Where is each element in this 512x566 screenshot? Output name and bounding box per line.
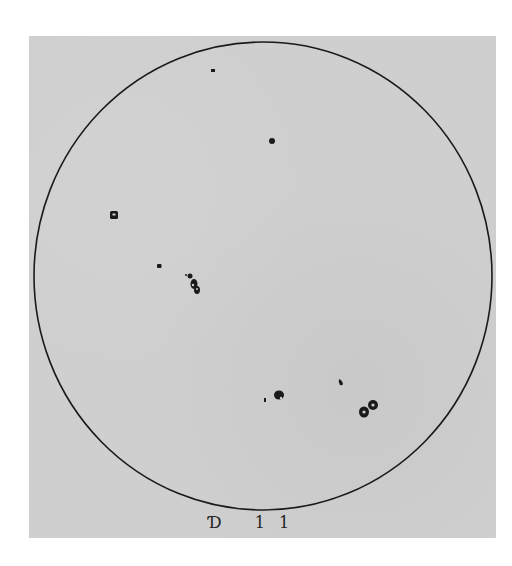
plate-caption: Ɗ 11 bbox=[0, 513, 512, 532]
sunspot-lower-center bbox=[264, 391, 284, 403]
sunspot-upper-center bbox=[269, 138, 275, 144]
sunspot-left-square bbox=[110, 211, 118, 219]
solar-disk-drawing bbox=[0, 0, 512, 566]
sunspot-lower-right-pair bbox=[359, 400, 378, 418]
sunspot-top-small bbox=[211, 69, 215, 72]
sunspot-left-small bbox=[157, 264, 162, 268]
sunspot-lower-right-small bbox=[339, 379, 343, 385]
sunspot-group-center-left bbox=[185, 274, 200, 295]
solar-disk-outline bbox=[34, 42, 492, 510]
sunspots bbox=[110, 69, 378, 418]
